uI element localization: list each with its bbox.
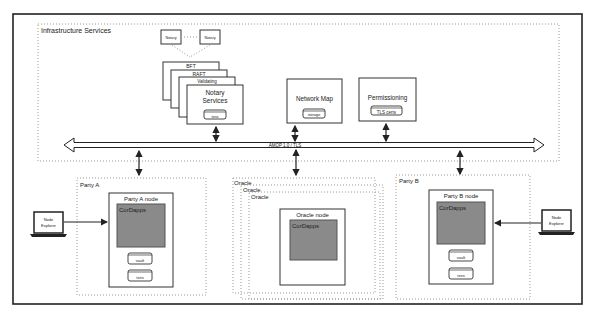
party-b-node-explorer: Node Explorer [495, 210, 575, 235]
oracle-node-title: Oracle node [296, 212, 329, 218]
permissioning-store-label: TLS certs [377, 110, 397, 115]
notary-peer-link [190, 45, 210, 57]
oracle-cordapps-label: CorDapps [292, 223, 319, 229]
party-b-group: Party B Party B node CorDapps vault txns [396, 175, 530, 299]
bus-label: AMQP 1.0 / TLS [269, 143, 302, 148]
infrastructure-services-title: Infrastructure Services [41, 27, 112, 34]
notary-peers: Notary Notary [161, 30, 220, 57]
explorer-label: Explorer [41, 223, 57, 228]
notary-peer-link [172, 45, 190, 57]
network-map-title: Network Map [296, 95, 334, 103]
bus-arrow-icon [64, 138, 544, 152]
notary-peer-label: Notary [165, 36, 176, 40]
explorer-label: Node [44, 217, 54, 222]
permissioning-service: Permissioning TLS certs [359, 78, 416, 121]
oracle-title: Oracle [251, 194, 269, 200]
architecture-diagram: Infrastructure Services Notary Notary BF… [0, 0, 596, 320]
explorer-label: Node [552, 215, 562, 220]
notary-peer-label: Notary [204, 36, 215, 40]
notary-stack: BFT RAFT Validating Notary Services txns [163, 62, 243, 124]
party-a-vault-label: vault [136, 258, 145, 263]
notary-store-label: txns [212, 115, 219, 119]
party-a-node-explorer: Node Explorer [30, 212, 107, 237]
party-a-txns-label: txns [136, 275, 143, 280]
network-map-store-label: storage [308, 113, 321, 117]
oracle-title: Oracle [234, 180, 252, 186]
permissioning-title: Permissioning [368, 94, 408, 102]
party-b-txns-label: txns [457, 273, 464, 278]
laptop-base-icon [30, 234, 67, 237]
oracle-group: Oracle Oracle Oracle Oracle node CorDapp… [233, 178, 383, 299]
party-b-vault-label: vault [457, 255, 466, 260]
network-map-service: Network Map storage [287, 79, 342, 123]
party-a-node-title: Party A node [124, 196, 159, 202]
validating-label: Validating [197, 79, 217, 84]
bft-label: BFT [186, 63, 195, 69]
party-a-title: Party A [80, 182, 99, 188]
party-b-cordapps-label: CorDapps [439, 205, 466, 211]
party-b-node-title: Party B node [444, 193, 479, 199]
party-b-title: Party B [399, 178, 419, 184]
party-a-group: Party A Party A node CorDapps vault txns [77, 178, 206, 295]
amqp-bus: AMQP 1.0 / TLS [64, 138, 544, 152]
party-a-cordapps-label: CorDapps [119, 207, 146, 213]
explorer-label: Explorer [549, 221, 565, 226]
notary-services-title: Notary [205, 89, 225, 97]
laptop-base-icon [538, 232, 575, 235]
notary-services-title: Services [203, 97, 229, 104]
infrastructure-services-group: Infrastructure Services Notary Notary BF… [38, 24, 559, 161]
raft-label: RAFT [192, 71, 205, 77]
